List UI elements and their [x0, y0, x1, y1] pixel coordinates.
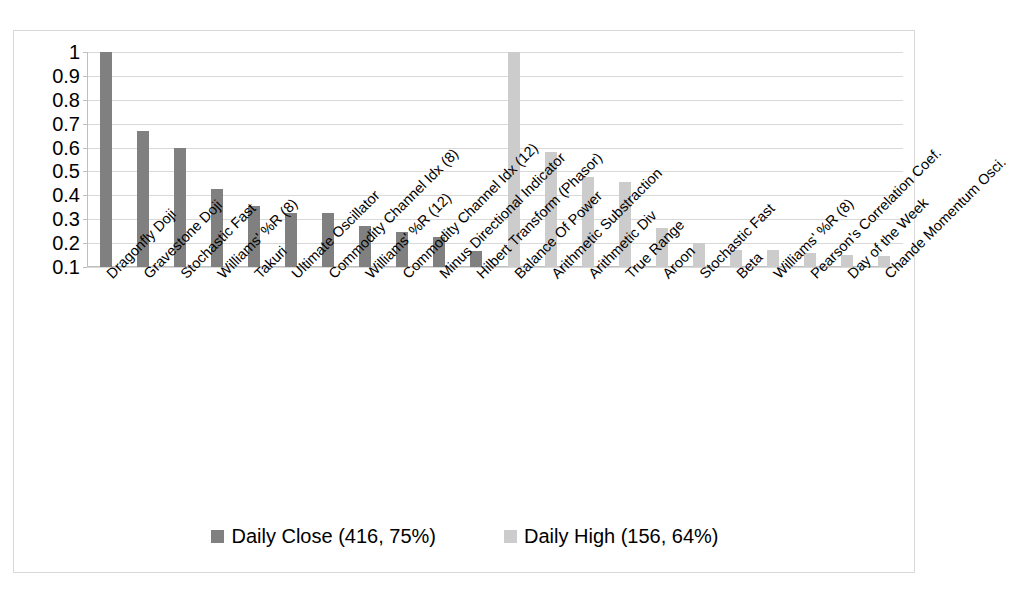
y-tick-label: 0.7	[52, 114, 80, 134]
chart-frame: 10.90.80.70.60.50.40.30.20.1 Dragonfly D…	[13, 30, 915, 573]
bar	[285, 213, 297, 267]
bar	[100, 52, 112, 267]
y-tick-label: 0.3	[52, 209, 80, 229]
gridline	[87, 76, 903, 77]
y-tick-label: 0.4	[52, 185, 80, 205]
gridline	[87, 171, 903, 172]
y-tick-label: 0.8	[52, 90, 80, 110]
y-axis-line	[87, 52, 88, 267]
y-tick-label: 0.2	[52, 233, 80, 253]
legend-item[interactable]: Daily Close (416, 75%)	[211, 526, 436, 546]
y-tick-label: 0.1	[52, 257, 80, 277]
legend-label: Daily Close (416, 75%)	[231, 526, 436, 546]
y-tick-label: 0.5	[52, 161, 80, 181]
x-axis-labels: Dragonfly DojiGravestone DojiStochastic …	[87, 267, 903, 497]
chart-legend: Daily Close (416, 75%)Daily High (156, 6…	[14, 526, 916, 546]
y-tick-label: 0.9	[52, 66, 80, 86]
y-tick-label: 0.6	[52, 138, 80, 158]
legend-swatch-icon	[211, 530, 224, 543]
gridline	[87, 100, 903, 101]
y-tick-label: 1	[69, 42, 80, 62]
plot-area	[87, 52, 903, 267]
legend-item[interactable]: Daily High (156, 64%)	[504, 526, 719, 546]
gridline	[87, 148, 903, 149]
y-axis-labels: 10.90.80.70.60.50.40.30.20.1	[14, 52, 80, 267]
legend-swatch-icon	[504, 530, 517, 543]
legend-label: Daily High (156, 64%)	[524, 526, 719, 546]
gridline	[87, 52, 903, 53]
gridline	[87, 124, 903, 125]
